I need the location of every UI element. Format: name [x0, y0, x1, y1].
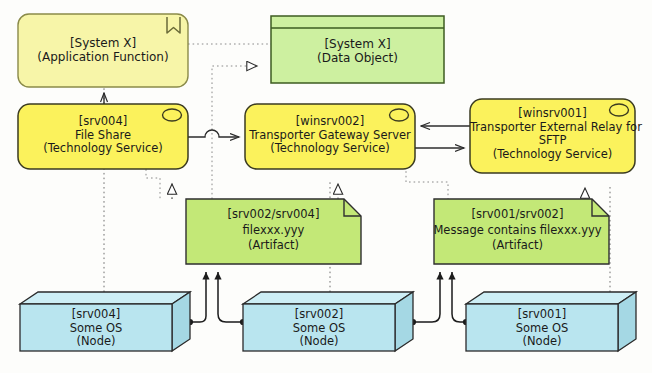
- connector-serving-srv004-to-winsrv002: [188, 130, 239, 137]
- node-top-face: [243, 292, 413, 304]
- shape-node-srv001[interactable]: [466, 292, 636, 351]
- connector-assignment-srv001-to-artifact2: [452, 272, 466, 322]
- connector-assignment-srv002-to-artifact2: [413, 272, 440, 322]
- shape-artifact-srv002-srv004[interactable]: [186, 199, 361, 264]
- shape-application-function-system-x[interactable]: [18, 14, 188, 87]
- shape-technology-service-winsrv001[interactable]: [470, 99, 635, 173]
- diagram-canvas: [System X] (Application Function) [Syste…: [0, 0, 652, 373]
- node-top-face: [20, 292, 190, 304]
- shape-node-srv002[interactable]: [243, 292, 413, 351]
- shape-technology-service-winsrv002[interactable]: [245, 104, 415, 169]
- connector-dotted-winsrv002-down-right: [406, 162, 448, 199]
- node-front-face: [20, 304, 172, 351]
- shape-technology-service-srv004[interactable]: [18, 104, 188, 169]
- node-front-face: [466, 304, 618, 351]
- connector-assignment-srv002-to-artifact1: [218, 272, 243, 322]
- shape-node-srv004[interactable]: [20, 292, 190, 351]
- shape-data-object-system-x[interactable]: [271, 16, 444, 83]
- page-footer-text: [0, 357, 652, 373]
- connector-assignment-srv004-to-artifact1: [190, 272, 206, 322]
- diagram-svg: [0, 0, 652, 373]
- node-top-face: [466, 292, 636, 304]
- node-front-face: [243, 304, 395, 351]
- shape-artifact-srv001-srv002[interactable]: [434, 199, 609, 264]
